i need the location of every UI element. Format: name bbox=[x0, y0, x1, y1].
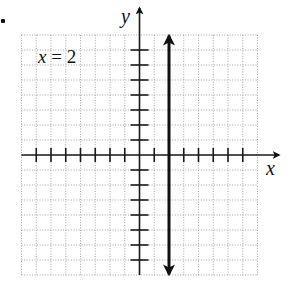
y-axis-label: y bbox=[121, 6, 130, 26]
equation-label: x = 2 bbox=[38, 47, 76, 66]
coordinate-plane bbox=[0, 0, 293, 288]
x-axis-label: x bbox=[266, 158, 275, 178]
equation-value: = 2 bbox=[46, 46, 76, 67]
